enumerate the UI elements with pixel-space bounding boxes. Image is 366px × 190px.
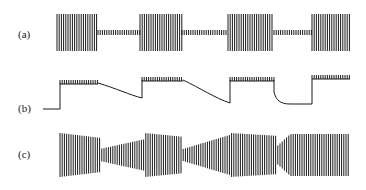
waveform-c	[60, 133, 348, 177]
waveform-a	[57, 14, 349, 51]
waveform-figure	[0, 0, 366, 190]
waveform-b	[43, 75, 350, 109]
